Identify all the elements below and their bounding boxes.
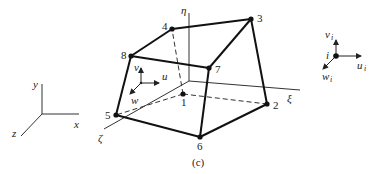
xi-axis-label: ξ [287, 92, 292, 105]
legend-v-label: v [325, 28, 330, 40]
node-8-label: 8 [121, 49, 127, 61]
node-i-dot [333, 53, 339, 59]
eta-axis-label: η [181, 4, 186, 16]
node-4 [169, 26, 174, 31]
node-1-label: 1 [181, 96, 187, 108]
node-5-label: 5 [105, 109, 111, 121]
isoparametric-element-diagram: y x z η ξ ζ 1 2 3 4 5 [0, 0, 381, 174]
node-3-label: 3 [257, 12, 263, 24]
global-y-label: y [32, 78, 38, 90]
local-u-label: u [162, 70, 168, 82]
visible-edges [116, 19, 267, 137]
legend-w-label: w [322, 70, 330, 82]
node-7-label: 7 [215, 63, 221, 75]
local-v-label: v [134, 61, 139, 73]
node-2-label: 2 [273, 99, 279, 111]
node-8 [128, 53, 133, 58]
figure-caption: (c) [192, 156, 205, 169]
global-z-label: z [11, 127, 17, 139]
node-7 [206, 65, 211, 70]
global-axes [21, 84, 79, 136]
node-2 [264, 101, 269, 106]
global-x-label: x [73, 118, 79, 130]
node-6-label: 6 [197, 140, 203, 152]
node-i-label: i [326, 49, 329, 61]
local-origin-dot [140, 82, 143, 85]
zeta-axis-label: ζ [98, 132, 104, 145]
node-6 [197, 134, 202, 139]
local-w-label: w [131, 94, 139, 106]
node-3 [248, 16, 253, 21]
node-4-label: 4 [162, 20, 168, 32]
legend-v-subscript: i [331, 33, 333, 42]
node-5 [113, 112, 118, 117]
legend-u-label: u [357, 59, 363, 71]
legend-w-subscript: i [330, 75, 332, 84]
legend-u-subscript: i [364, 64, 366, 73]
